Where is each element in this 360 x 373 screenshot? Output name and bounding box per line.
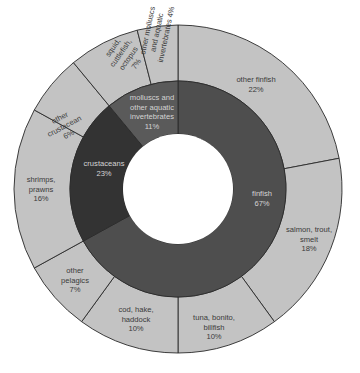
fish-production-sunburst-chart: other finfish22%salmon, trout,smelt18%tu… [0,0,360,373]
label-finfish: finfish67% [252,189,272,208]
donut-hole [123,134,233,244]
chart-svg: other finfish22%salmon, trout,smelt18%tu… [0,0,360,373]
